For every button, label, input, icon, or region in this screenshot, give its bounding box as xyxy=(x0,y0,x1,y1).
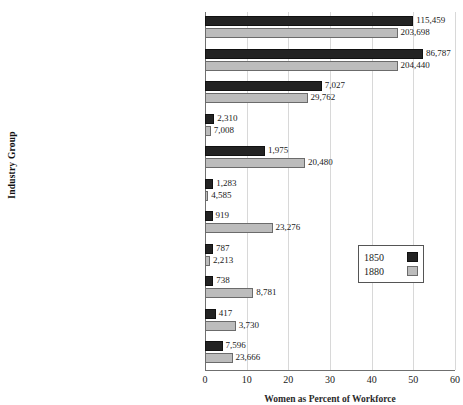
bar-1850 xyxy=(205,81,322,91)
bar-value-label-1880: 3,730 xyxy=(239,320,259,330)
black-square-swatch-icon xyxy=(407,252,418,262)
bar-value-label-1850: 2,310 xyxy=(217,113,237,123)
bar-1850 xyxy=(205,244,213,254)
bar-value-label-1850: 7,027 xyxy=(325,80,345,90)
bar-value-label-1880: 20,480 xyxy=(308,157,333,167)
x-tick-label-60: 60 xyxy=(450,374,460,385)
bar-group: Chemicals and Allied Products4173,730 xyxy=(205,305,455,338)
bar-value-label-1850: 1,283 xyxy=(216,178,236,188)
bar-value-label-1850: 7,596 xyxy=(226,340,246,350)
bar-1850 xyxy=(205,146,265,156)
bar-group: Tobacco and Cigars1,97520,480 xyxy=(205,142,455,175)
x-axis-line xyxy=(205,370,455,371)
bar-1850 xyxy=(205,16,413,26)
bar-1880 xyxy=(205,191,208,201)
bar-1880 xyxy=(205,256,210,266)
bar-1880 xyxy=(205,93,308,103)
bar-value-label-1850: 86,787 xyxy=(426,48,451,58)
x-tick-label-0: 0 xyxy=(203,374,208,385)
bar-1880 xyxy=(205,321,236,331)
bar-1850 xyxy=(205,276,213,286)
x-tick-label-20: 20 xyxy=(283,374,293,385)
x-axis-ticks: 0102030405060 xyxy=(205,374,455,388)
bar-value-label-1880: 203,698 xyxy=(401,27,430,37)
bar-1880 xyxy=(205,126,211,136)
bar-value-label-1880: 2,213 xyxy=(213,255,233,265)
x-axis-title: Women as Percent of Workforce xyxy=(205,394,455,404)
x-tick-label-40: 40 xyxy=(367,374,377,385)
bar-1880 xyxy=(205,223,273,233)
bar-1880 xyxy=(205,158,305,168)
x-tick-label-10: 10 xyxy=(242,374,252,385)
bar-1880 xyxy=(205,61,398,71)
bar-value-label-1880: 23,276 xyxy=(276,222,301,232)
legend-label-1850: 1850 xyxy=(364,252,384,263)
legend-item-1850: 1850 xyxy=(364,250,418,264)
bar-group: Lumber and Lumber Products2,3107,008 xyxy=(205,110,455,143)
x-tick-label-50: 50 xyxy=(408,374,418,385)
bar-1850 xyxy=(205,211,213,221)
legend-item-1880: 1880 xyxy=(364,264,418,278)
bar-1850 xyxy=(205,341,223,351)
bar-value-label-1880: 8,781 xyxy=(256,287,276,297)
bar-1850 xyxy=(205,309,216,319)
bar-1850 xyxy=(205,49,423,59)
legend: 1850 1880 xyxy=(358,245,424,283)
bar-1880 xyxy=(205,28,398,38)
bar-value-label-1850: 738 xyxy=(216,275,230,285)
y-axis-title: Industry Group xyxy=(7,105,17,225)
gray-square-swatch-icon xyxy=(407,266,418,276)
bar-group: Clothing Industries115,459203,698 xyxy=(205,12,455,45)
bar-value-label-1880: 4,585 xyxy=(211,190,231,200)
bar-rows: Clothing Industries115,459203,698Textile… xyxy=(205,12,455,370)
bar-value-label-1850: 1,975 xyxy=(268,145,288,155)
gridline-60 xyxy=(455,12,456,370)
bar-group: Textile Industries86,787204,440 xyxy=(205,45,455,78)
bar-value-label-1880: 29,762 xyxy=(311,92,336,102)
bar-1880 xyxy=(205,288,253,298)
bar-group: Other Manufacturing Industries7,59623,66… xyxy=(205,337,455,370)
bar-value-label-1850: 115,459 xyxy=(416,15,445,25)
bar-chart: Industry Group Clothing Industries115,45… xyxy=(0,0,463,405)
bar-group: Paper and Printing7,02729,762 xyxy=(205,77,455,110)
bar-1850 xyxy=(205,179,213,189)
bar-value-label-1850: 417 xyxy=(219,308,233,318)
bar-group: Iron, Steel, and Their Products1,2834,58… xyxy=(205,175,455,208)
bar-value-label-1850: 919 xyxy=(216,210,230,220)
bar-value-label-1880: 204,440 xyxy=(401,60,430,70)
bar-value-label-1850: 787 xyxy=(216,243,230,253)
plot-area: Clothing Industries115,459203,698Textile… xyxy=(205,12,455,370)
x-tick-label-30: 30 xyxy=(325,374,335,385)
legend-label-1880: 1880 xyxy=(364,266,384,277)
bar-group: Food and Kindred Products91923,276 xyxy=(205,207,455,240)
bar-1850 xyxy=(205,114,214,124)
bar-value-label-1880: 23,666 xyxy=(236,352,261,362)
bar-value-label-1880: 7,008 xyxy=(214,125,234,135)
bar-1880 xyxy=(205,353,233,363)
